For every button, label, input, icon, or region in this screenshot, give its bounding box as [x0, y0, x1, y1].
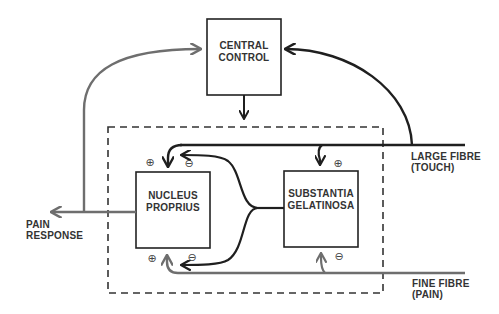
gate-control-diagram: CENTRAL CONTROL NUCLEUS PROPRIUS SUBSTAN… — [0, 0, 499, 314]
nucleus-proprius-node: NUCLEUS PROPRIUS — [136, 172, 210, 248]
substantia-gelatinosa-label-1: SUBSTANTIA — [288, 188, 354, 199]
nucleus-proprius-label-2: PROPRIUS — [146, 202, 200, 213]
central-control-label-2: CONTROL — [219, 52, 270, 63]
sg-bottom-minus-sign: ⊖ — [334, 250, 343, 263]
substantia-gelatinosa-label-2: GELATINOSA — [288, 200, 355, 211]
sg-top-plus-sign: ⊕ — [333, 157, 342, 170]
large-fibre-to-np-arrow — [168, 145, 182, 166]
fine-fibre-to-sg-arrow — [321, 254, 325, 273]
fine-fibre-label-2: (PAIN) — [412, 289, 443, 300]
np-bottom-minus-sign: ⊖ — [187, 251, 196, 264]
large-fibre-label-2: (TOUCH) — [411, 162, 454, 173]
large-fibre-to-central-arrow — [286, 49, 412, 145]
large-fibre-label-1: LARGE FIBRE — [411, 151, 481, 162]
np-bottom-plus-sign: ⊕ — [147, 252, 156, 265]
large-fibre-to-sg-arrow — [319, 145, 322, 164]
fine-fibre-label-1: FINE FIBRE — [412, 278, 470, 289]
central-control-node: CENTRAL CONTROL — [207, 19, 281, 95]
pain-response-label-1: PAIN — [26, 219, 50, 230]
np-top-minus-sign: ⊖ — [184, 157, 193, 170]
pain-response-label-2: RESPONSE — [26, 230, 83, 241]
central-control-label-1: CENTRAL — [219, 40, 268, 51]
np-top-plus-sign: ⊕ — [145, 156, 154, 169]
substantia-gelatinosa-node: SUBSTANTIA GELATINOSA — [284, 171, 358, 247]
nucleus-proprius-label-1: NUCLEUS — [148, 190, 198, 201]
